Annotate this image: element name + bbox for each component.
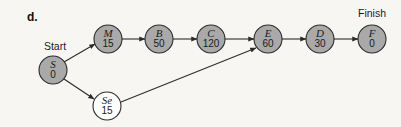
- node-e[interactable]: E60: [254, 25, 282, 53]
- network-diagram: S0M15B50C120E60D30F0Se15 StartFinish d.: [0, 0, 401, 127]
- node-b[interactable]: B50: [145, 25, 173, 53]
- node-value-se: 15: [101, 105, 113, 116]
- node-value-b: 50: [153, 38, 165, 49]
- edge-se-to-e: [121, 48, 256, 102]
- node-se[interactable]: Se15: [93, 92, 121, 120]
- node-value-d: 30: [314, 38, 326, 49]
- node-value-s: 0: [50, 69, 56, 80]
- node-m[interactable]: M15: [94, 25, 122, 53]
- finish-label: Finish: [358, 7, 386, 19]
- part-label: d.: [27, 10, 38, 24]
- node-d[interactable]: D30: [306, 25, 334, 53]
- node-s[interactable]: S0: [39, 56, 67, 84]
- node-c[interactable]: C120: [197, 25, 225, 53]
- nodes-layer: S0M15B50C120E60D30F0Se15: [39, 25, 386, 120]
- node-value-c: 120: [203, 38, 220, 49]
- edge-s-to-se: [64, 79, 94, 99]
- node-value-e: 60: [262, 38, 274, 49]
- node-f[interactable]: F0: [358, 25, 386, 53]
- node-value-f: 0: [369, 38, 375, 49]
- node-value-m: 15: [102, 38, 114, 49]
- figure-panel: S0M15B50C120E60D30F0Se15 StartFinish d.: [0, 0, 401, 127]
- edge-s-to-m: [64, 44, 95, 62]
- start-label: Start: [44, 40, 66, 52]
